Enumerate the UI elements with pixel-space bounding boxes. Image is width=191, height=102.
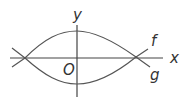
curve-f-label: f — [151, 32, 159, 50]
origin-label: O — [63, 61, 75, 79]
curve-g-label: g — [150, 66, 160, 84]
curve-f — [12, 31, 148, 67]
graph-diagram: y x O f g — [0, 0, 191, 102]
curve-g — [12, 48, 150, 84]
x-axis-label: x — [169, 49, 179, 67]
y-axis-label: y — [72, 6, 83, 24]
